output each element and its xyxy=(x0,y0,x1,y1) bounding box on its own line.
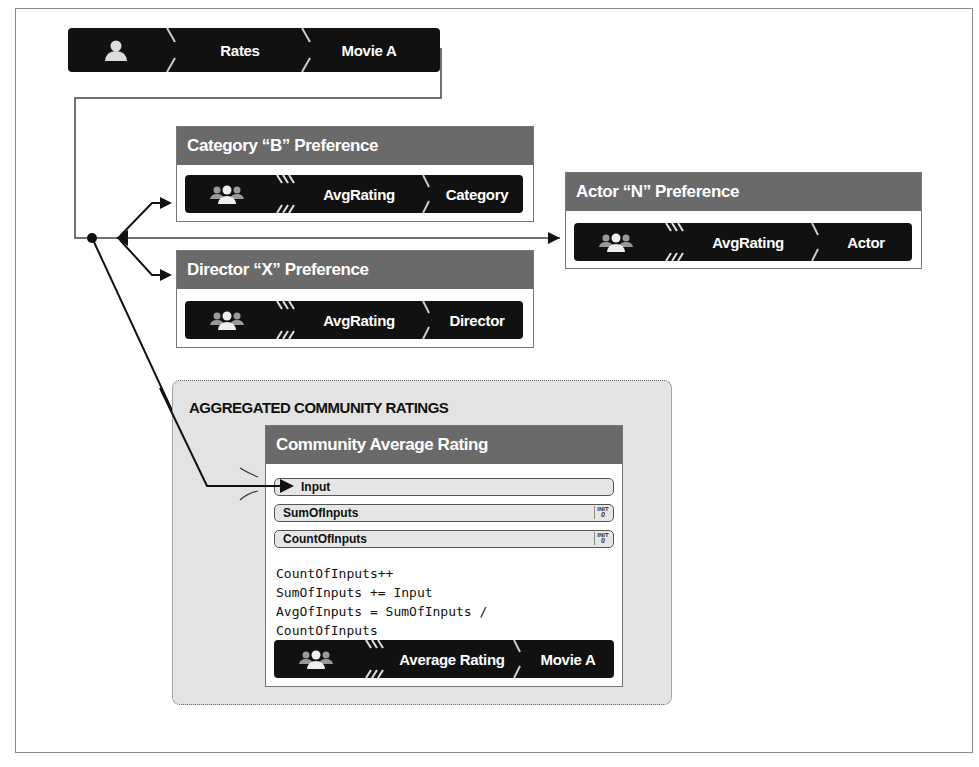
key-label: Movie A xyxy=(524,640,612,678)
metric-label: Average Rating xyxy=(390,640,514,678)
preference-bar: AvgRating Category xyxy=(185,175,523,213)
key-label: Director xyxy=(433,301,521,339)
separator-hatch-icon xyxy=(362,640,392,678)
group-icon xyxy=(274,640,358,678)
arrow-director xyxy=(160,269,172,281)
card-title: Community Average Rating xyxy=(266,426,622,464)
group-icon xyxy=(185,175,269,213)
metric-label: AvgRating xyxy=(694,223,802,261)
separator-hatch-icon xyxy=(273,301,303,339)
preference-bar: AvgRating Actor xyxy=(574,223,912,261)
junction-dot xyxy=(87,233,97,243)
group-icon xyxy=(574,223,658,261)
relation-label: Rates xyxy=(180,28,300,72)
arrow-category xyxy=(160,197,172,209)
sum-of-inputs-field: SumOfInputs INIT0 xyxy=(274,504,614,522)
init-badge: INIT0 xyxy=(594,532,611,545)
preference-bar: AvgRating Director xyxy=(185,301,523,339)
key-label: Actor xyxy=(822,223,910,261)
separator-hatch-icon xyxy=(662,223,692,261)
field-label: CountOfInputs xyxy=(283,532,367,546)
actor-preference-card: Actor “N” Preference AvgRating Actor xyxy=(565,172,922,269)
metric-label: AvgRating xyxy=(305,175,413,213)
card-title: Director “X” Preference xyxy=(177,251,533,289)
card-title: Actor “N” Preference xyxy=(566,173,921,211)
input-field: Input xyxy=(274,478,614,496)
key-label: Category xyxy=(433,175,521,213)
aggregation-code: CountOfInputs++SumOfInputs += InputAvgOf… xyxy=(276,564,487,640)
arrow-actor xyxy=(548,232,560,244)
group-icon xyxy=(185,301,269,339)
init-badge: INIT0 xyxy=(594,506,611,519)
target-label: Movie A xyxy=(314,28,424,72)
community-average-card: Community Average Rating Input SumOfInpu… xyxy=(265,425,623,687)
director-preference-card: Director “X” Preference AvgRating Direct… xyxy=(176,250,534,348)
group-title: AGGREGATED COMMUNITY RATINGS xyxy=(189,399,448,416)
field-label: SumOfInputs xyxy=(283,506,358,520)
metric-label: AvgRating xyxy=(305,301,413,339)
source-bar: Rates Movie A xyxy=(68,28,440,72)
count-of-inputs-field: CountOfInputs INIT0 xyxy=(274,530,614,548)
separator-hatch-icon xyxy=(273,175,303,213)
category-preference-card: Category “B” Preference AvgRating Catego… xyxy=(176,126,534,222)
person-icon xyxy=(68,28,163,72)
card-title: Category “B” Preference xyxy=(177,127,533,165)
field-label: Input xyxy=(301,480,330,494)
output-bar: Average Rating Movie A xyxy=(274,640,614,678)
aggregated-community-group: AGGREGATED COMMUNITY RATINGS Community A… xyxy=(172,380,672,705)
